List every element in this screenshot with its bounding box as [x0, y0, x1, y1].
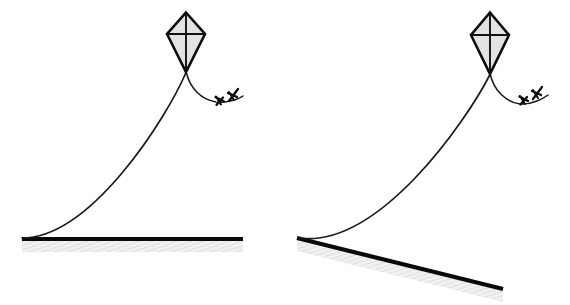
figure-canvas [0, 0, 570, 305]
kite-string-left [22, 73, 186, 239]
ground-hatch-right [297, 240, 503, 302]
kite-diagram-figure [0, 0, 570, 305]
left-panel [22, 13, 243, 253]
tail-bow-1-left [216, 97, 225, 106]
ground-hatch-left [22, 241, 243, 252]
kite-string-right [298, 75, 490, 239]
ground-line-right [297, 238, 503, 289]
right-panel [297, 13, 548, 303]
tail-bow-2-right [532, 87, 542, 99]
